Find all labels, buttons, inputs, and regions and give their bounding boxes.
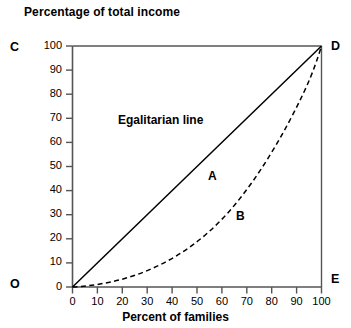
x-tick-label: 80	[260, 295, 284, 307]
y-tick-label: 70	[36, 111, 62, 123]
x-tick-label: 0	[61, 295, 85, 307]
x-tick-label: 50	[185, 295, 209, 307]
x-tick-label: 70	[235, 295, 259, 307]
y-tick-label: 20	[36, 231, 62, 243]
x-tick-label: 30	[135, 295, 159, 307]
x-tick-label: 60	[210, 295, 234, 307]
corner-label-c: C	[10, 40, 19, 54]
corner-label-d: D	[331, 39, 340, 53]
y-tick-label: 60	[36, 135, 62, 147]
y-tick-label: 50	[36, 159, 62, 171]
y-axis-ticks	[66, 46, 73, 287]
x-tick-label: 40	[160, 295, 184, 307]
y-tick-label: 30	[36, 207, 62, 219]
y-tick-label: 0	[36, 280, 62, 292]
y-tick-label: 90	[36, 63, 62, 75]
x-tick-label: 100	[310, 295, 334, 307]
corner-label-o: O	[10, 277, 20, 291]
x-axis-ticks	[73, 287, 322, 294]
lorenz-curve-figure: Percentage of total income	[0, 0, 351, 328]
x-tick-label: 20	[110, 295, 134, 307]
x-tick-label: 10	[85, 295, 109, 307]
y-tick-label: 80	[36, 87, 62, 99]
egalitarian-line-label: Egalitarian line	[118, 113, 203, 127]
area-label-a: A	[208, 169, 217, 183]
y-tick-label: 10	[36, 255, 62, 267]
x-axis-title: Percent of families	[0, 310, 351, 324]
y-tick-label: 100	[36, 39, 62, 51]
egalitarian-line	[73, 46, 322, 287]
x-tick-label: 90	[285, 295, 309, 307]
area-label-b: B	[236, 209, 245, 223]
y-tick-label: 40	[36, 183, 62, 195]
corner-label-e: E	[331, 272, 339, 286]
